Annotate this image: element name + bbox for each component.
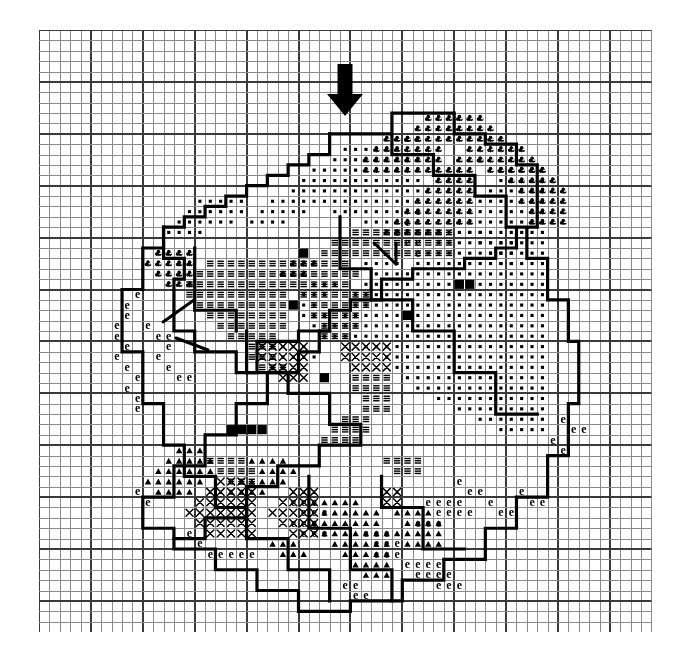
cross-stitch-chart-page: Cross-Stitch Pattern Chart - Apple heatm… bbox=[0, 0, 677, 660]
center-column-arrow bbox=[0, 0, 677, 660]
